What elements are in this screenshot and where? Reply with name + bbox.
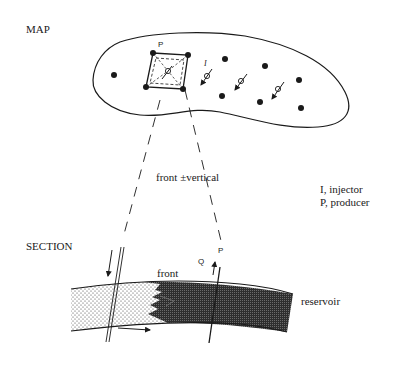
injector-well-icon: [235, 74, 247, 90]
front-label: front: [157, 267, 178, 279]
producer-label-map: P: [158, 40, 163, 49]
producer-well-icon: [262, 63, 268, 69]
producer-well-icon: [257, 99, 263, 105]
producer-well-icon: [219, 93, 225, 99]
producer-well-icon: [298, 105, 304, 111]
front-vertical-label: front ±vertical: [156, 171, 219, 183]
legend-producer: P, producer: [320, 196, 370, 208]
producer-well-icon: [185, 52, 191, 58]
producer-well-icon: [150, 50, 156, 56]
flow-direction-arrow: [118, 328, 150, 330]
producer-well-icon: [296, 77, 302, 83]
section-title: SECTION: [26, 240, 73, 252]
production-arrow: [213, 262, 215, 275]
reservoir-diagram: MAP P I front ±vertical: [0, 0, 393, 370]
legend: I, injector P, producer: [320, 183, 370, 208]
reservoir-label: reservoir: [301, 295, 340, 307]
injector-label-map: I: [203, 59, 207, 68]
rate-label: Q: [198, 257, 204, 266]
field-outline: [93, 33, 349, 128]
producer-well-icon: [143, 84, 149, 90]
map-title: MAP: [26, 23, 50, 35]
five-spot-pattern: [143, 50, 191, 92]
producer-well-icon: [222, 56, 228, 62]
projection-line-right: [185, 90, 222, 245]
injector-well-icon: [162, 66, 172, 79]
injector-well-icon: [272, 82, 284, 99]
injector-well-icon: [201, 69, 212, 85]
legend-injector: I, injector: [320, 183, 363, 195]
producer-label-section: P: [218, 246, 223, 255]
injection-arrow: [108, 250, 112, 276]
projection-line-left: [123, 100, 160, 238]
oil-zone: [143, 282, 293, 332]
producer-well-icon: [111, 72, 117, 78]
